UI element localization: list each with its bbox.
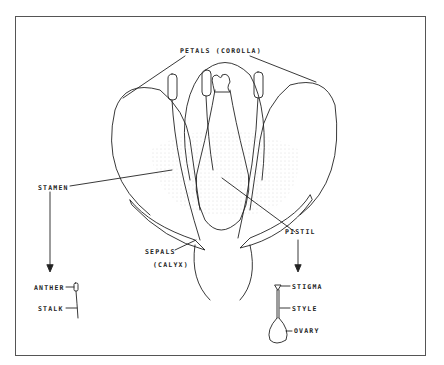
- label-ovary: OVARY: [294, 327, 320, 335]
- stalk-detail: [76, 291, 78, 318]
- label-pistil: PISTIL: [285, 228, 316, 236]
- label-stigma: STIGMA: [292, 283, 323, 291]
- anther-left-inner: [202, 70, 211, 96]
- receptacle: [194, 245, 252, 300]
- stigma-detail: [275, 285, 281, 290]
- anther-detail: [74, 283, 78, 291]
- label-stalk: STALK: [38, 305, 64, 313]
- leader-petals-left: [123, 56, 185, 98]
- label-sepals: SEPALS: [145, 248, 176, 256]
- label-calyx: (CALYX): [153, 261, 189, 269]
- stigma-top: [212, 74, 230, 92]
- label-style: STYLE: [292, 305, 318, 313]
- leader-sepals: [175, 240, 196, 250]
- label-anther: ANTHER: [34, 284, 65, 292]
- arrowhead-stamen: [47, 265, 53, 272]
- anther-left-outer: [168, 74, 177, 100]
- label-petals: PETALS (COROLLA): [180, 47, 262, 55]
- leader-stamen: [70, 170, 172, 186]
- label-stamen: STAMEN: [38, 184, 69, 192]
- leader-petals-right: [250, 56, 316, 82]
- arrowhead-pistil: [295, 265, 301, 272]
- ovary-detail: [269, 318, 287, 343]
- stipple-shading: [150, 130, 300, 215]
- style-detail: [277, 290, 279, 318]
